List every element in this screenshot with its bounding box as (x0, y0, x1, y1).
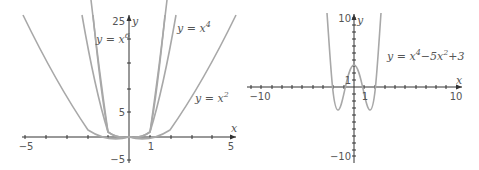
left-y-label: y (131, 15, 139, 28)
right-y-arrow-icon (352, 14, 357, 20)
left-xtick-1: 1 (148, 141, 154, 152)
right-ytick-1: 1 (345, 75, 351, 86)
right-ytick-10: 10 (338, 13, 351, 24)
right-y-label: y (356, 14, 364, 27)
label-x4: y = x4 (176, 20, 211, 35)
right-chart: −10 1 10 10 1 −10 x y y = x4−5x2+3 (247, 13, 464, 163)
left-ytick-25: 25 (112, 16, 125, 27)
label-x6: y = x6 (95, 31, 130, 46)
right-xtick-10: 10 (450, 91, 463, 102)
left-y-arrow-icon (127, 15, 132, 21)
left-x-label: x (231, 122, 238, 135)
label-quartic: y = x4−5x2+3 (386, 48, 464, 63)
left-ytick-neg5: −5 (110, 154, 125, 165)
right-x-label: x (456, 74, 463, 87)
figure: −5 1 5 25 5 −5 x y y = x6 y = x4 y = x2 (0, 0, 479, 170)
right-ytick-neg10: −10 (330, 151, 351, 162)
left-xtick-5: 5 (228, 141, 234, 152)
left-xtick-neg5: −5 (19, 141, 34, 152)
left-chart: −5 1 5 25 5 −5 x y y = x6 y = x4 y = x2 (19, 0, 238, 165)
right-xtick-neg10: −10 (249, 91, 270, 102)
right-xtick-1: 1 (362, 91, 368, 102)
label-x2: y = x2 (194, 90, 229, 105)
left-ytick-5: 5 (119, 107, 125, 118)
